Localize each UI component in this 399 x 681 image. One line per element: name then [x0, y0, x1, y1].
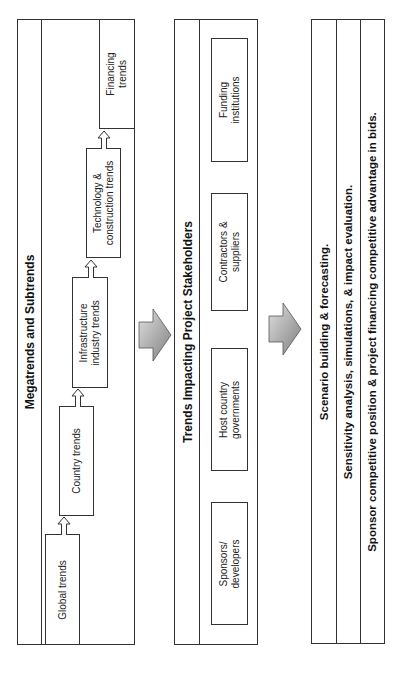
- funding-institutions-box: Funding institutions: [211, 38, 248, 162]
- outcome-row-scenario: Scenario building & forecasting.: [312, 20, 337, 643]
- hollow-up-arrow-icon: [84, 259, 98, 278]
- hollow-up-arrow-icon: [71, 388, 85, 407]
- label-line: Technology &: [92, 161, 104, 246]
- contractors-suppliers-label: Contractors & suppliers: [218, 221, 242, 282]
- label-line: institutions: [230, 76, 242, 123]
- stakeholders-title: Trends Impacting Project Stakeholders: [180, 221, 194, 443]
- infrastructure-trends-label: Infrastructure industry trends: [78, 300, 102, 366]
- label-line: Financing: [105, 52, 117, 95]
- outcome-sensitivity-text: Sensitivity analysis, simulations, & imp…: [342, 184, 356, 479]
- host-country-governments-box: Host country governments: [211, 348, 248, 471]
- label-line: construction trends: [104, 161, 116, 246]
- label-line: Sponsors/: [218, 539, 230, 588]
- label-line: developers: [230, 539, 242, 588]
- financing-trends-label: Financing trends: [105, 52, 129, 95]
- hollow-up-arrow-icon: [57, 516, 71, 535]
- stakeholders-title-strip: Trends Impacting Project Stakeholders: [175, 20, 200, 644]
- financing-trends-box: Financing trends: [99, 19, 135, 129]
- contractors-suppliers-box: Contractors & suppliers: [211, 193, 248, 311]
- global-trends-box: Global trends: [45, 534, 80, 645]
- sponsors-developers-box: Sponsors/ developers: [211, 502, 248, 625]
- label-line: Country trends: [71, 428, 83, 494]
- global-trends-label: Global trends: [57, 560, 69, 619]
- label-line: Global trends: [57, 560, 69, 619]
- label-line: industry trends: [90, 300, 102, 366]
- label-line: governments: [230, 381, 242, 439]
- right-arrow-icon: [138, 308, 172, 362]
- funding-institutions-label: Funding institutions: [218, 76, 242, 123]
- technology-trends-box: Technology & construction trends: [86, 148, 121, 258]
- technology-trends-label: Technology & construction trends: [92, 161, 116, 246]
- outcome-row-sensitivity: Sensitivity analysis, simulations, & imp…: [336, 20, 361, 643]
- outcome-row-competitive: Sponsor competitive position & project f…: [360, 20, 385, 643]
- country-trends-box: Country trends: [59, 406, 94, 516]
- label-line: Contractors &: [218, 221, 230, 282]
- label-line: Infrastructure: [78, 300, 90, 366]
- right-arrow-icon: [268, 302, 302, 356]
- sponsors-developers-label: Sponsors/ developers: [218, 539, 242, 588]
- megatrends-title: Megatrends and Subtrends: [23, 255, 37, 410]
- label-line: Host country: [218, 381, 230, 439]
- infrastructure-trends-box: Infrastructure industry trends: [72, 277, 108, 388]
- label-line: trends: [117, 52, 129, 95]
- country-trends-label: Country trends: [71, 428, 83, 494]
- label-line: Funding: [218, 76, 230, 123]
- outcomes-panel: Scenario building & forecasting. Sensiti…: [311, 19, 385, 644]
- megatrends-title-strip: Megatrends and Subtrends: [18, 20, 42, 644]
- host-country-governments-label: Host country governments: [218, 381, 242, 439]
- hollow-up-arrow-icon: [97, 130, 111, 149]
- label-line: suppliers: [230, 221, 242, 282]
- outcome-scenario-text: Scenario building & forecasting.: [318, 243, 332, 419]
- outcome-competitive-text: Sponsor competitive position & project f…: [366, 112, 380, 552]
